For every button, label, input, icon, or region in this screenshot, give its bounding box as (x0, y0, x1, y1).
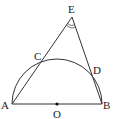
label-o: O (53, 108, 61, 119)
angle-e-mark-inner (68, 24, 75, 26)
label-a: A (1, 99, 9, 111)
segment-ae (12, 17, 72, 104)
geometry-diagram: E C D A B O (0, 0, 113, 119)
label-c: C (34, 50, 41, 62)
label-e: E (68, 3, 75, 15)
label-d: D (93, 64, 101, 76)
label-b: B (103, 99, 110, 111)
center-point-o (55, 102, 58, 105)
segment-be (72, 17, 102, 104)
